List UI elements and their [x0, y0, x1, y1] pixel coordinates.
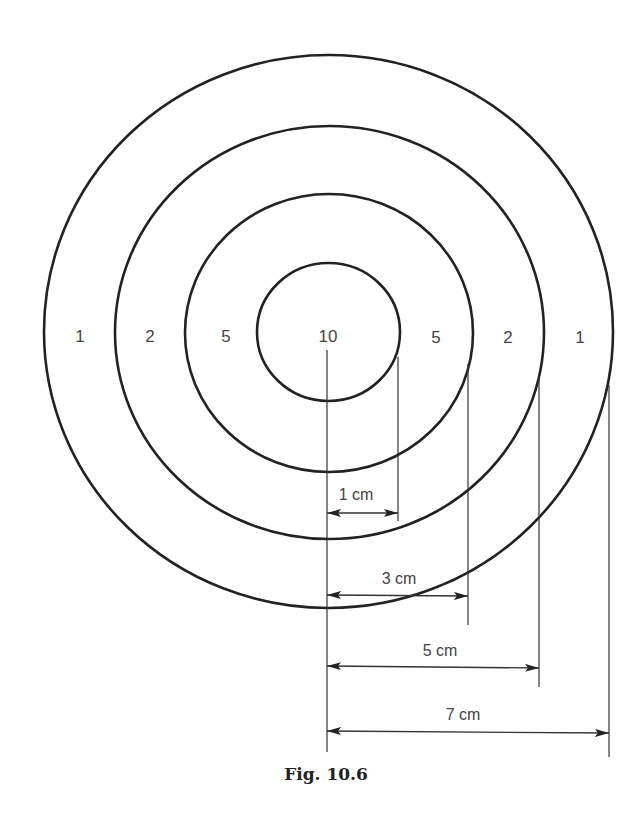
dimension-label-1cm: 1 cm	[339, 486, 374, 503]
dimension-arrow-7cm	[327, 731, 609, 733]
dimension-label-5cm: 5 cm	[423, 642, 458, 659]
score-right-third: 2	[503, 328, 512, 347]
score-right-outer: 1	[575, 328, 584, 347]
extension-lines	[327, 350, 609, 757]
dimension-label-7cm: 7 cm	[446, 706, 481, 723]
dimension-labels: 1 cm 3 cm 5 cm 7 cm	[339, 486, 481, 723]
target-diagram: 1 2 5 10 5 2 1 1 cm 3 cm 5 cm 7 cm Fig. …	[0, 0, 643, 816]
score-left-second: 5	[221, 327, 230, 346]
dimension-arrow-5cm	[327, 666, 539, 668]
dimension-arrow-3cm	[327, 595, 468, 596]
score-left-outer: 1	[75, 327, 84, 346]
score-right-second: 5	[431, 328, 440, 347]
score-left-third: 2	[145, 327, 154, 346]
figure-caption: Fig. 10.6	[284, 764, 368, 784]
score-center: 10	[319, 327, 338, 346]
score-labels: 1 2 5 10 5 2 1	[75, 327, 584, 347]
dimension-label-3cm: 3 cm	[382, 570, 417, 587]
